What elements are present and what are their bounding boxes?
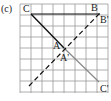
reflection-diagram: (c) C B B' A A' C' <box>0 0 111 101</box>
label-b: B <box>91 2 98 13</box>
label-b-prime: B' <box>100 14 109 25</box>
label-c-prime: C' <box>100 83 109 94</box>
mirror-line <box>29 13 100 86</box>
label-a-prime: A' <box>60 52 69 63</box>
figure-tag: (c) <box>1 3 12 15</box>
label-c: C <box>23 3 30 14</box>
label-a: A <box>53 40 61 51</box>
segment-a-prime-c-prime <box>64 48 99 82</box>
